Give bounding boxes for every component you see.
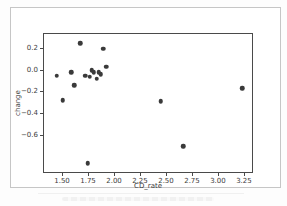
y-tick-mark	[40, 48, 43, 49]
y-axis-ticks: 0.20.0−0.2−0.4−0.6	[11, 33, 43, 173]
data-point	[91, 70, 96, 75]
data-point	[99, 72, 104, 77]
y-tick-label: −0.4	[21, 109, 38, 117]
y-tick-label: 0.0	[27, 66, 38, 74]
y-tick-label: −0.2	[21, 87, 38, 95]
y-tick-label: −0.6	[21, 131, 38, 139]
cutoff-caption-smudge	[62, 197, 214, 201]
data-point	[78, 41, 83, 46]
data-point	[101, 47, 106, 52]
data-point	[54, 73, 59, 78]
y-tick-mark	[40, 113, 43, 114]
data-point	[85, 161, 90, 166]
data-point	[104, 65, 109, 70]
figure-card: change 0.20.0−0.2−0.4−0.6 1.501.752.002.…	[10, 7, 281, 188]
data-point	[61, 98, 66, 103]
data-point	[158, 99, 163, 104]
y-tick-mark	[40, 91, 43, 92]
y-tick-mark	[40, 135, 43, 136]
cutoff-caption-rule	[38, 193, 244, 194]
y-tick-mark	[40, 70, 43, 71]
data-point	[181, 144, 186, 149]
data-point	[69, 70, 74, 75]
data-point	[72, 83, 77, 88]
data-point	[240, 86, 245, 91]
data-point	[87, 74, 92, 79]
data-point	[95, 76, 100, 81]
plot-area	[43, 33, 253, 173]
y-tick-label: 0.2	[27, 44, 38, 52]
x-axis-label: CD_rate	[43, 182, 253, 190]
